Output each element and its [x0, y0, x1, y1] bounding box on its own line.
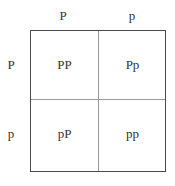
column-header-2: p: [112, 9, 152, 23]
row-header-2: p: [4, 127, 18, 141]
punnett-grid: PP Pp pP pp: [30, 30, 166, 172]
column-header-1: P: [43, 9, 83, 23]
cell-r2-c1: pP: [31, 100, 98, 168]
cell-r1-c1: PP: [31, 31, 98, 99]
cell-r2-c2: pp: [99, 100, 166, 168]
cell-r1-c2: Pp: [99, 31, 166, 99]
row-header-1: P: [4, 58, 18, 72]
